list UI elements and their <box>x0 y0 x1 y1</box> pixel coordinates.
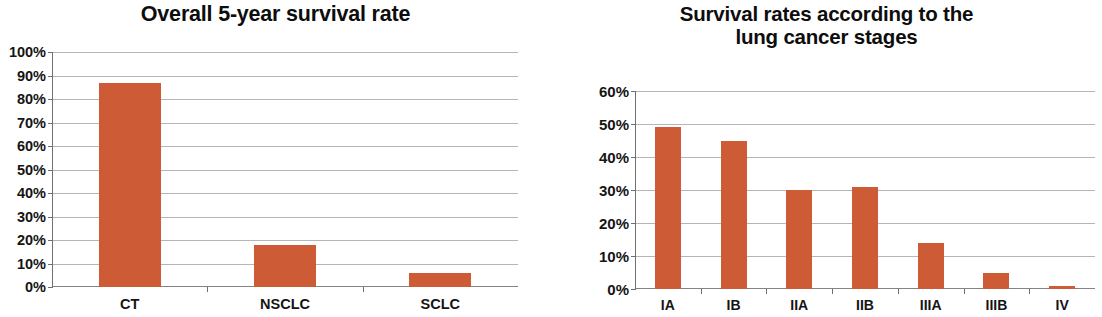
x-axis-label: IIIB <box>986 297 1008 313</box>
bar <box>99 83 161 287</box>
chart-title-line: lung cancer stages <box>551 26 1102 49</box>
x-axis-label: SCLC <box>421 296 460 312</box>
x-axis-tick <box>832 289 833 294</box>
y-axis-label: 30% <box>17 209 46 225</box>
chart-overall-survival: Overall 5-year survival rate 0%10%20%30%… <box>0 0 551 317</box>
y-axis-label: 90% <box>17 68 46 84</box>
y-axis-label: 60% <box>17 138 46 154</box>
y-axis-label: 60% <box>599 83 629 100</box>
bar <box>918 243 944 289</box>
x-axis-tick <box>766 289 767 294</box>
bar <box>721 141 747 290</box>
bar <box>852 187 878 289</box>
x-axis-label: NSCLC <box>260 296 310 312</box>
x-axis-label: IV <box>1056 297 1069 313</box>
chart-title-overall-survival: Overall 5-year survival rate <box>0 2 551 26</box>
x-axis-label: IA <box>661 297 675 313</box>
y-axis-label: 0% <box>25 279 46 295</box>
y-axis-label: 30% <box>599 182 629 199</box>
chart-page: Overall 5-year survival rate 0%10%20%30%… <box>0 0 1102 317</box>
bar <box>983 273 1009 290</box>
y-axis-label: 20% <box>599 215 629 232</box>
y-axis-label: 80% <box>17 91 46 107</box>
y-axis-label: 50% <box>599 116 629 133</box>
bar <box>254 245 316 287</box>
bars-survival-by-stage: IAIBIIAIIBIIIAIIIBIV <box>635 91 1095 289</box>
x-axis-tick <box>964 289 965 294</box>
x-axis-tick <box>701 289 702 294</box>
y-axis-label: 50% <box>17 162 46 178</box>
y-axis-label: 70% <box>17 115 46 131</box>
y-axis-label: 0% <box>607 281 629 298</box>
x-axis-tick <box>1029 289 1030 294</box>
y-axis-label: 10% <box>17 256 46 272</box>
bar <box>786 190 812 289</box>
x-axis-label: CT <box>120 296 139 312</box>
bar <box>1049 286 1075 289</box>
chart-title-line: Overall 5-year survival rate <box>0 2 551 26</box>
x-axis-label: IIIA <box>920 297 942 313</box>
y-axis-label: 100% <box>9 44 46 60</box>
x-axis-tick <box>363 287 364 292</box>
chart-title-survival-by-stage: Survival rates according to the lung can… <box>551 3 1102 49</box>
y-axis-tick <box>48 287 53 288</box>
x-axis-label: IB <box>727 297 741 313</box>
y-axis-label: 20% <box>17 232 46 248</box>
x-axis-label: IIA <box>790 297 808 313</box>
bars-overall-survival: CTNSCLCSCLC <box>52 52 518 287</box>
plot-area-overall-survival: 0%10%20%30%40%50%60%70%80%90%100% CTNSCL… <box>52 52 518 287</box>
chart-title-line: Survival rates according to the <box>551 3 1102 26</box>
y-axis-label: 40% <box>599 149 629 166</box>
bar <box>409 273 471 287</box>
bar <box>655 127 681 289</box>
chart-survival-by-stage: Survival rates according to the lung can… <box>551 0 1102 317</box>
y-axis-tick <box>631 289 636 290</box>
x-axis-tick <box>207 287 208 292</box>
y-axis-label: 40% <box>17 185 46 201</box>
y-axis-label: 10% <box>599 248 629 265</box>
x-axis-label: IIB <box>856 297 874 313</box>
x-axis-tick <box>898 289 899 294</box>
plot-area-survival-by-stage: 0%10%20%30%40%50%60% IAIBIIAIIBIIIAIIIBI… <box>635 91 1095 289</box>
